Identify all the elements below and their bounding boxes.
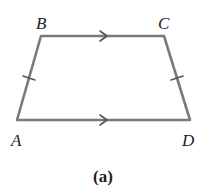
vertex-label-b: B (36, 14, 47, 33)
vertex-label-d: D (181, 131, 195, 150)
vertex-label-c: C (158, 14, 170, 33)
figure-caption: (a) (93, 167, 113, 186)
trapezoid-diagram: B C A D (a) (0, 0, 205, 191)
trapezoid-abcd (17, 36, 190, 120)
vertex-label-a: A (10, 131, 22, 150)
